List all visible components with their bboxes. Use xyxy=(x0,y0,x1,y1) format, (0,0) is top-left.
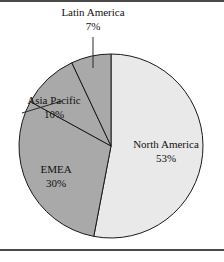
pie-chart-canvas: Latin America 7% Asia Pacific 10% EMEA 3… xyxy=(0,0,224,262)
label-north-america-value: 53% xyxy=(156,152,176,164)
label-north-america-name: North America xyxy=(133,138,199,150)
label-latin-america-value: 7% xyxy=(86,20,101,32)
bottom-divider-rule xyxy=(0,249,224,251)
label-emea-name: EMEA xyxy=(40,163,71,175)
label-latin-america-name: Latin America xyxy=(61,6,124,18)
pie-chart-figure: Latin America 7% Asia Pacific 10% EMEA 3… xyxy=(0,0,224,262)
label-asia-pacific-name: Asia Pacific xyxy=(27,94,81,106)
label-emea-value: 30% xyxy=(46,177,66,189)
label-asia-pacific-value: 10% xyxy=(44,108,64,120)
